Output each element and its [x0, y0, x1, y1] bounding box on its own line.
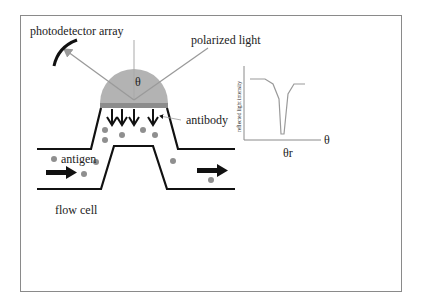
antigen-label: antigen: [61, 152, 96, 166]
inset-ylabel: reflected light intensity: [236, 81, 242, 132]
gold-film: [100, 103, 168, 108]
inset-plot: reflected light intensity θ θr: [236, 66, 330, 160]
flow-arrow-in: [46, 166, 77, 179]
photodetector-label: photodetector array: [30, 24, 124, 38]
theta-r-label: θr: [283, 146, 293, 160]
flow-cell-label: flow cell: [55, 203, 98, 217]
antibody-label: antibody: [186, 113, 228, 127]
theta-angle-label: θ: [135, 75, 141, 89]
antibody-group: [107, 109, 158, 125]
spr-diagram: θ antibody antigen flow cell: [0, 0, 421, 301]
flow-arrow-out: [197, 164, 228, 177]
polarized-light-label: polarized light: [191, 33, 261, 47]
inset-xlabel: θ: [324, 133, 330, 147]
photodetector-arc: [54, 40, 77, 66]
reflectance-curve: [250, 79, 305, 134]
